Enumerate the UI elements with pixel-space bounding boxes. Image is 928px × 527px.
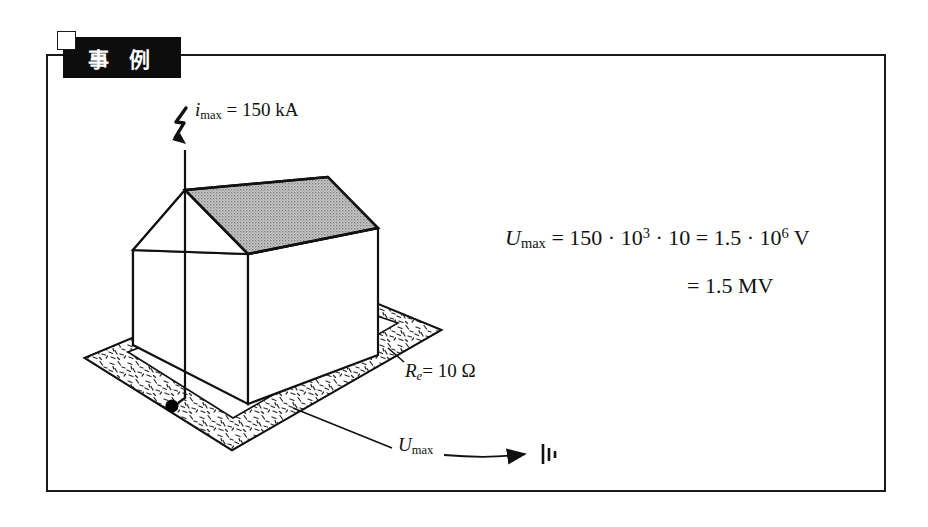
eq1-term-b-exponent: 3 [643,225,650,241]
eq1-subscript: max [521,235,546,251]
eq1-dot-3: · [747,225,754,250]
label-resistance-value: 10 Ω [438,360,476,381]
label-voltage-arrow: Umax [398,435,433,456]
eq1-result-base: 10 [759,225,781,250]
eq1-term-c: 10 [668,225,690,250]
label-current-subscript: max [200,108,222,122]
eq1-term-b: 10 [621,225,643,250]
eq2-equals: = [687,273,699,298]
page-root: 事 例 [0,0,928,527]
label-resistance: Re= 10 Ω [405,361,476,382]
label-current-equals: = [227,99,238,120]
eq1-symbol: U [505,225,521,250]
label-resistance-equals: = [422,360,433,381]
eq1-result-exponent: 6 [781,225,788,241]
banner-label: 事 例 [88,43,155,73]
corner-notch-icon [57,31,76,50]
eq1-result-unit: V [794,225,810,250]
label-current-value: 150 kA [242,99,298,120]
label-current: imax = 150 kA [195,100,299,121]
eq1-equals-2: = [696,225,708,250]
eq2-value: 1.5 [705,273,733,298]
eq1-equals-1: = [551,225,563,250]
eq1-dot-2: · [655,225,662,250]
eq1-dot-1: · [608,225,615,250]
eq2-unit: MV [738,273,773,298]
equation-line-1: Umax = 150 · 103 · 10 = 1.5 · 106 V [505,226,810,251]
label-resistance-symbol: R [405,360,417,381]
eq1-term-a: 150 [569,225,602,250]
label-voltage-symbol: U [398,434,412,455]
equation-line-2: = 1.5 MV [687,275,773,297]
label-voltage-subscript: max [412,443,434,457]
eq1-result-mantissa: 1.5 [714,225,742,250]
section-banner: 事 例 [63,37,181,78]
